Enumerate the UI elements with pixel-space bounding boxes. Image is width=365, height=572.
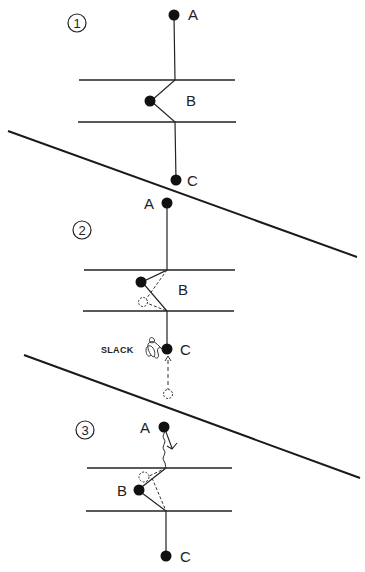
panel-divider-2 [24, 355, 360, 478]
node-a [169, 10, 180, 21]
label-a: A [144, 195, 154, 212]
node-a [162, 198, 173, 209]
diagram-canvas: 1 A B C 2 A B C SLACK [0, 0, 365, 572]
panel-divider-1 [8, 131, 357, 257]
diagram-svg: 1 A B C 2 A B C SLACK [0, 0, 365, 572]
label-b: B [178, 281, 188, 298]
node-b [134, 485, 145, 496]
slack-coil-icon [146, 338, 162, 359]
node-c [161, 551, 172, 562]
node-b [136, 277, 147, 288]
label-a: A [188, 6, 198, 23]
label-b: B [117, 482, 127, 499]
step-number: 3 [81, 423, 88, 438]
node-c-previous-position [164, 390, 173, 399]
node-a [159, 422, 170, 433]
panel-2: 2 A B C SLACK [73, 195, 235, 399]
slack-label: SLACK [101, 345, 134, 355]
node-b-previous-position [139, 472, 149, 482]
label-c: C [180, 548, 191, 565]
panel-3: 3 A B C [76, 419, 232, 565]
step-number: 1 [73, 16, 80, 31]
pull-down-arrow-icon [166, 432, 177, 449]
step-number: 2 [78, 223, 85, 238]
label-a: A [140, 419, 150, 436]
node-c [162, 344, 173, 355]
label-c: C [187, 172, 198, 189]
rope-wavy [163, 428, 166, 468]
node-b-previous-position [139, 298, 148, 307]
label-b: B [186, 92, 196, 109]
label-c: C [180, 341, 191, 358]
node-b [145, 96, 156, 107]
node-c [171, 175, 182, 186]
rope [151, 16, 176, 180]
